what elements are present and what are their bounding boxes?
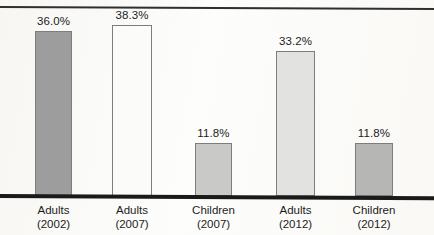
bar-value-label: 11.8% (169, 127, 259, 139)
tick-label-line-2: (2012) (319, 217, 429, 231)
tick-label-line-1: Children (353, 204, 396, 216)
bar-chart: 36.0%38.3%11.8%33.2%11.8% Adults(2002)Ad… (0, 0, 434, 235)
bar-value-label: 33.2% (251, 35, 341, 47)
tick-label-line-1: Adults (280, 204, 312, 216)
x-axis-baseline (0, 194, 434, 200)
tick-label-line-1: Adults (38, 204, 70, 216)
bar (276, 51, 315, 196)
bar-value-label: 36.0% (9, 15, 99, 27)
tick-label-line-1: Adults (116, 204, 148, 216)
bar (195, 143, 232, 196)
bar-value-label: 38.3% (87, 9, 177, 21)
x-axis-tick-label: Children(2012) (319, 203, 429, 231)
top-rule-divider (0, 6, 434, 10)
bar (355, 143, 393, 196)
bar (35, 31, 72, 196)
bar-value-label: 11.8% (329, 127, 419, 139)
tick-label-line-1: Children (192, 204, 235, 216)
bar (112, 25, 152, 196)
